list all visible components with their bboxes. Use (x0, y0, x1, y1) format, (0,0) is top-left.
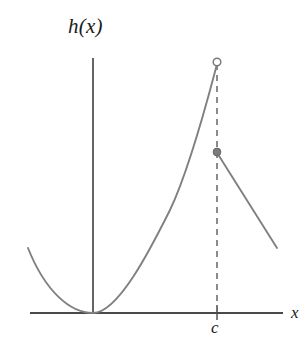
function-graph (0, 0, 301, 357)
filled-dot-point (213, 148, 221, 156)
x-axis-label: x (291, 303, 299, 323)
open-circle-point (213, 58, 221, 66)
function-label: h(x) (68, 14, 103, 39)
figure-root: h(x) c x (0, 0, 301, 357)
graph-background (0, 0, 301, 357)
c-axis-label: c (211, 318, 219, 338)
